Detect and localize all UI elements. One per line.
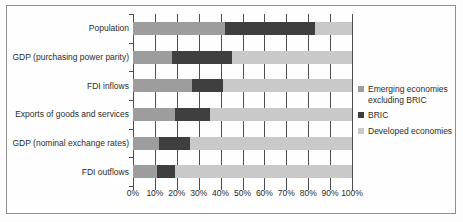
x-tick-label: 20%: [168, 188, 185, 198]
gridline: [330, 14, 331, 186]
bar-segment-developed: [175, 165, 352, 178]
x-axis-tick-labels: 0%10%20%30%40%50%60%70%80%90%100%: [133, 188, 352, 202]
legend-swatch-icon: [358, 128, 364, 134]
x-tick-label: 60%: [256, 188, 273, 198]
gridline: [177, 14, 178, 186]
bar-row: [133, 165, 352, 178]
legend-entry: Developed economies: [358, 126, 456, 137]
category-label: Population: [89, 23, 129, 33]
category-axis-labels: PopulationGDP (purchasing power parity)F…: [8, 14, 129, 186]
gridline: [155, 14, 156, 186]
plot-area: [133, 14, 352, 186]
legend-label: Developed economies: [368, 126, 452, 137]
category-label: Exports of goods and services: [15, 109, 129, 119]
legend-entry: BRIC: [358, 110, 456, 121]
bar-row: [133, 51, 352, 64]
legend-swatch-icon: [358, 86, 364, 92]
x-tick-label: 30%: [190, 188, 207, 198]
gridline: [243, 14, 244, 186]
chart-legend: Emerging economies excluding BRICBRICDev…: [358, 84, 456, 141]
category-label: GDP (purchasing power parity): [12, 52, 129, 62]
bar-row: [133, 22, 352, 35]
bar-row: [133, 137, 352, 150]
x-tick-label: 0%: [127, 188, 139, 198]
bar-segment-developed: [210, 108, 352, 121]
y-axis-tick: [129, 157, 133, 158]
x-tick-label: 40%: [212, 188, 229, 198]
bar-segment-emerging: [133, 79, 192, 92]
x-tick-label: 80%: [300, 188, 317, 198]
x-tick-label: 100%: [341, 188, 363, 198]
category-label: FDI outflows: [82, 167, 129, 177]
bar-segment-emerging: [133, 22, 225, 35]
x-tick-label: 10%: [146, 188, 163, 198]
bar-segment-emerging: [133, 165, 157, 178]
gridline: [199, 14, 200, 186]
gridline: [308, 14, 309, 186]
chart-figure: PopulationGDP (purchasing power parity)F…: [0, 0, 463, 222]
bar-segment-developed: [232, 51, 352, 64]
bar-row: [133, 108, 352, 121]
y-axis-tick: [129, 43, 133, 44]
x-tick-label: 70%: [278, 188, 295, 198]
bar-segment-emerging: [133, 51, 172, 64]
gridline: [221, 14, 222, 186]
legend-entry: Emerging economies excluding BRIC: [358, 84, 456, 105]
bar-segment-emerging: [133, 108, 175, 121]
bar-segment-developed: [315, 22, 352, 35]
y-axis-tick: [129, 71, 133, 72]
bar-segment-bric: [157, 165, 175, 178]
bar-row: [133, 79, 352, 92]
gridline: [286, 14, 287, 186]
bar-segment-developed: [190, 137, 352, 150]
category-label: GDP (nominal exchange rates): [12, 138, 129, 148]
y-axis-tick: [129, 100, 133, 101]
bar-segment-bric: [225, 22, 315, 35]
bar-segment-developed: [223, 79, 352, 92]
y-axis-tick: [129, 14, 133, 15]
bar-segment-emerging: [133, 137, 159, 150]
x-tick-label: 90%: [322, 188, 339, 198]
gridline: [352, 14, 353, 186]
y-axis-tick: [129, 129, 133, 130]
x-tick-label: 50%: [234, 188, 251, 198]
legend-label: Emerging economies excluding BRIC: [368, 84, 456, 105]
gridline: [133, 14, 134, 186]
bar-segment-bric: [159, 137, 190, 150]
gridline: [264, 14, 265, 186]
category-label: FDI inflows: [87, 81, 129, 91]
legend-label: BRIC: [368, 110, 388, 121]
y-axis-tick: [129, 186, 133, 187]
bar-segment-bric: [175, 108, 210, 121]
bar-segment-bric: [192, 79, 223, 92]
bar-segment-bric: [172, 51, 231, 64]
legend-swatch-icon: [358, 112, 364, 118]
